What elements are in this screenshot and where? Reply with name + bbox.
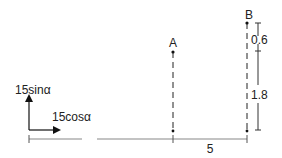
vertical-component-label: 15sinα <box>15 83 51 97</box>
point-a-label: A <box>169 36 177 50</box>
horizontal-component-label: 15cosα <box>52 110 91 124</box>
dimension-label-0-6: 0.6 <box>251 33 268 47</box>
dimension-label-1-8: 1.8 <box>251 88 268 102</box>
projectile-diagram: 5 15sinα 15cosα A B 0.6 1.8 <box>0 0 282 158</box>
point-a <box>171 50 174 132</box>
point-b <box>245 21 248 132</box>
ground-baseline <box>29 135 247 143</box>
point-b-label: B <box>245 8 253 22</box>
dimension-label-5: 5 <box>207 142 214 156</box>
